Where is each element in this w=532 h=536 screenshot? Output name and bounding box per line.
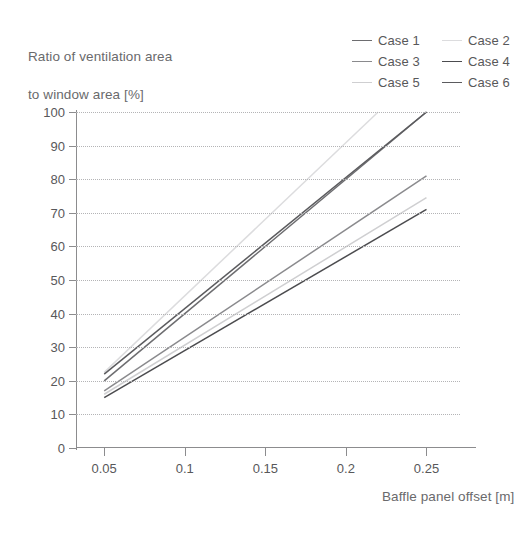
x-axis-tick-label: 0.25: [414, 461, 439, 476]
y-axis-tick-label: 10: [51, 407, 65, 422]
x-axis-tick-label: 0.05: [92, 461, 117, 476]
gridline-horizontal: [76, 246, 460, 247]
gridline-horizontal: [76, 179, 460, 180]
gridline-horizontal: [76, 213, 460, 214]
series-line-case-3: [104, 176, 426, 391]
y-axis-title-line1: Ratio of ventilation area: [28, 47, 172, 66]
legend-item-case-3[interactable]: Case 3: [352, 51, 434, 72]
y-axis-tick: [69, 347, 76, 348]
y-axis-tick-label: 90: [51, 138, 65, 153]
x-axis-tick-label: 0.15: [253, 461, 278, 476]
y-axis-tick: [69, 179, 76, 180]
series-line-case-5: [104, 198, 426, 395]
y-axis-tick-label: 60: [51, 239, 65, 254]
y-axis-tick: [69, 112, 76, 113]
x-axis-tick: [265, 448, 266, 456]
y-axis-tick-label: 20: [51, 373, 65, 388]
legend-label: Case 4: [468, 54, 510, 69]
legend-item-case-6[interactable]: Case 6: [442, 72, 524, 93]
legend-swatch-icon: [352, 82, 372, 83]
x-axis-tick: [104, 448, 105, 456]
legend-swatch-icon: [352, 61, 372, 62]
legend-item-case-5[interactable]: Case 5: [352, 72, 434, 93]
legend-label: Case 5: [378, 75, 420, 90]
y-axis-tick-label: 50: [51, 273, 65, 288]
legend-label: Case 2: [468, 33, 510, 48]
gridline-horizontal: [76, 314, 460, 315]
y-axis-tick: [69, 448, 76, 449]
y-axis-tick-label: 80: [51, 172, 65, 187]
y-axis-tick-label: 100: [43, 105, 65, 120]
gridline-horizontal: [76, 146, 460, 147]
x-axis-tick: [426, 448, 427, 456]
y-axis-tick-label: 40: [51, 306, 65, 321]
x-axis-tick: [346, 448, 347, 456]
x-axis-tick: [185, 448, 186, 456]
x-axis-tick-label: 0.1: [176, 461, 194, 476]
y-axis-title-line2: to window area [%]: [28, 85, 172, 104]
series-line-case-6: [104, 112, 426, 374]
gridline-horizontal: [76, 280, 460, 281]
y-axis-tick: [69, 381, 76, 382]
gridline-horizontal: [76, 347, 460, 348]
y-axis-tick: [69, 213, 76, 214]
series-line-case-4: [104, 209, 426, 397]
y-axis-tick-label: 30: [51, 340, 65, 355]
legend-label: Case 6: [468, 75, 510, 90]
y-axis-tick: [69, 280, 76, 281]
series-line-case-2: [104, 112, 378, 372]
y-axis-tick: [69, 146, 76, 147]
chart-container: Ratio of ventilation area to window area…: [0, 0, 532, 536]
y-axis-tick: [69, 414, 76, 415]
legend-label: Case 1: [378, 33, 420, 48]
x-axis-title: Baffle panel offset [m]: [382, 489, 514, 504]
legend-swatch-icon: [352, 40, 372, 41]
legend-label: Case 3: [378, 54, 420, 69]
legend-item-case-2[interactable]: Case 2: [442, 30, 524, 51]
x-axis-tick-label: 0.2: [337, 461, 355, 476]
legend-item-case-4[interactable]: Case 4: [442, 51, 524, 72]
gridline-horizontal: [76, 414, 460, 415]
y-axis-tick-label: 0: [58, 441, 65, 456]
legend-swatch-icon: [442, 61, 462, 62]
legend-swatch-icon: [442, 40, 462, 41]
gridline-horizontal: [76, 381, 460, 382]
y-axis-tick: [69, 314, 76, 315]
gridline-horizontal: [76, 112, 460, 113]
y-axis-tick-label: 70: [51, 205, 65, 220]
y-axis-tick: [69, 246, 76, 247]
plot-area: 01020304050607080901000.050.10.150.20.25: [76, 112, 460, 448]
legend-swatch-icon: [442, 82, 462, 83]
legend-item-case-1[interactable]: Case 1: [352, 30, 434, 51]
chart-legend: Case 1Case 2Case 3Case 4Case 5Case 6: [352, 30, 524, 93]
